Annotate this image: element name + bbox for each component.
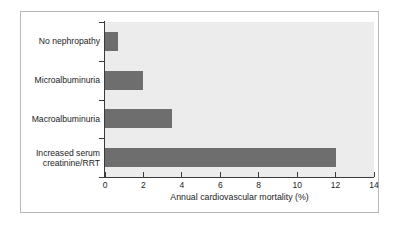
x-axis-tick-label: 12 [331,180,340,190]
category-label: No nephropathy [39,36,100,47]
x-axis-title: Annual cardiovascular mortality (%) [105,192,374,202]
bar [105,32,118,51]
x-axis-tick [374,172,375,177]
x-axis-tick [258,172,259,177]
x-axis-tick-label: 10 [292,180,301,190]
x-axis-line [104,177,374,178]
category-label: Increased serum creatinine/RRT [36,147,100,168]
x-axis-tick-label: 6 [218,180,223,190]
x-axis-tick-label: 14 [369,180,378,190]
y-axis-line [104,21,105,178]
horizontal-bar-chart: No nephropathyMicroalbuminuriaMacroalbum… [21,12,380,214]
x-axis-tick [143,172,144,177]
category-label: Microalbuminuria [35,75,100,86]
x-axis-tick [297,172,298,177]
x-axis-tick-label: 4 [179,180,184,190]
bar [105,71,143,90]
x-axis-tick-label: 0 [103,180,108,190]
figure-frame: No nephropathyMicroalbuminuriaMacroalbum… [20,11,379,213]
x-axis-tick-label: 2 [141,180,146,190]
x-axis-tick [335,172,336,177]
bar [105,109,172,128]
x-axis-tick [105,172,106,177]
x-axis-tick-label: 8 [256,180,261,190]
category-label: Macroalbuminuria [32,114,100,125]
x-axis-tick [181,172,182,177]
x-axis-tick [220,172,221,177]
bar [105,148,336,167]
